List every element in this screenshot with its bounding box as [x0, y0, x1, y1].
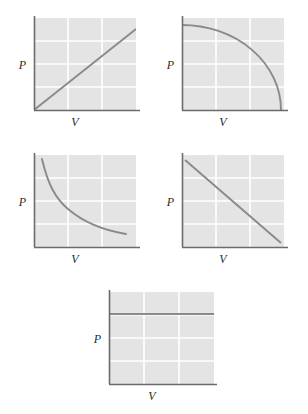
panel-d-axis-lines	[178, 153, 288, 251]
panel-d-y-axis-label: P	[154, 196, 174, 208]
panel-a-axes	[30, 16, 140, 114]
panel-a-x-axis-label: V	[65, 116, 85, 128]
panel-e-axes	[105, 290, 217, 388]
panel-b-y-axis-label: P	[154, 59, 174, 71]
panel-b-axis-lines	[178, 16, 288, 114]
panel-e-y-axis-label: P	[81, 333, 101, 345]
panel-c-axis-lines	[30, 153, 140, 251]
panel-c-y-axis-label: P	[6, 196, 26, 208]
panel-d-x-axis-label: V	[213, 253, 233, 265]
panel-d-axes	[178, 153, 288, 251]
pv-diagram-figure: P V P V	[0, 0, 308, 414]
panel-c-x-axis-label: V	[65, 253, 85, 265]
panel-b-x-axis-label: V	[213, 116, 233, 128]
panel-a-y-axis-label: P	[6, 59, 26, 71]
panel-c-axes	[30, 153, 140, 251]
panel-a-axis-lines	[30, 16, 140, 114]
panel-e-x-axis-label: V	[142, 390, 162, 402]
panel-e-axis-lines	[105, 290, 217, 388]
panel-b-axes	[178, 16, 288, 114]
